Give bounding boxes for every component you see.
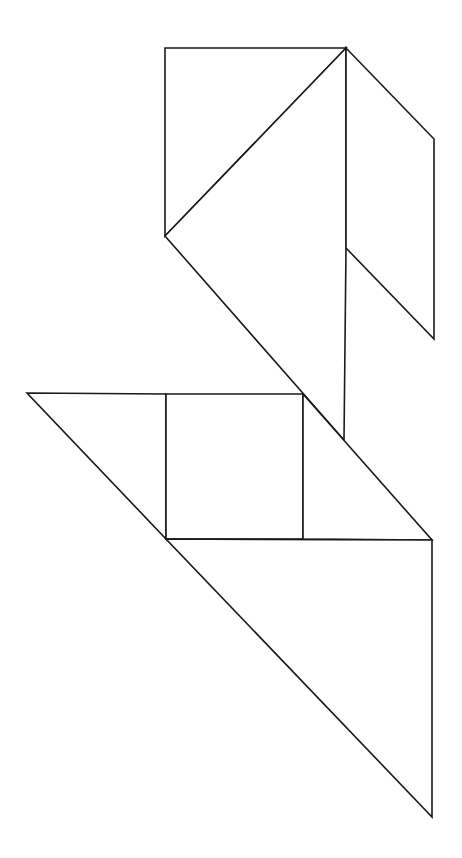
parallelogram-right [346, 48, 434, 339]
tangram-diagram [0, 0, 462, 858]
square [166, 394, 303, 539]
left-triangle [27, 393, 166, 539]
bottom-large-triangle [166, 539, 432, 817]
right-small-triangle [303, 394, 432, 540]
